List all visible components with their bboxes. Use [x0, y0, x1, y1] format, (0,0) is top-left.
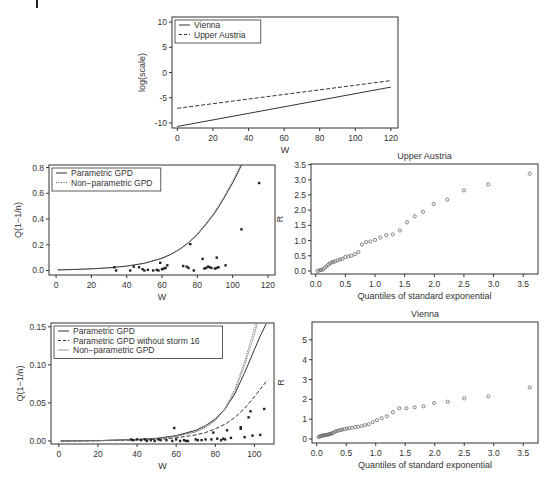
- y-tick-label: 4: [302, 355, 307, 365]
- legend-label: Non−parametric GPD: [73, 345, 155, 355]
- x-tick-label: 0.5: [340, 448, 352, 458]
- x-tick-label: 3.5: [517, 448, 529, 458]
- qq-point: [369, 240, 372, 243]
- y-axis-label: Q(1−1/n): [15, 366, 25, 402]
- x-tick-label: 2.0: [429, 448, 441, 458]
- plot-frame: [312, 322, 538, 443]
- x-axis-label: W: [281, 145, 290, 155]
- data-point: [153, 440, 155, 442]
- x-tick-label: 3.5: [517, 279, 529, 289]
- x-tick-label: 2.5: [458, 448, 470, 458]
- y-tick-label: 3: [302, 375, 307, 385]
- qq-point: [463, 397, 466, 400]
- qq-point: [391, 233, 394, 236]
- qq-point: [462, 189, 465, 192]
- qq-point: [385, 415, 388, 418]
- legend: ViennaUpper Austria: [175, 20, 261, 43]
- data-point: [230, 437, 232, 439]
- x-tick-label: 1.5: [399, 279, 411, 289]
- data-point: [240, 228, 242, 230]
- x-axis-label: W: [158, 461, 167, 471]
- x-tick-label: 60: [279, 133, 289, 143]
- y-tick-label: 0.4: [32, 214, 44, 224]
- x-tick-label: 2.5: [458, 279, 470, 289]
- qq-point: [528, 386, 531, 389]
- legend-label: Parametric GPD: [71, 168, 133, 178]
- qq-point: [446, 198, 449, 201]
- y-tick-label: 0.00: [29, 436, 46, 446]
- data-point: [210, 438, 212, 440]
- data-point: [187, 440, 189, 442]
- qq-point: [385, 234, 388, 237]
- qq-point: [446, 400, 449, 403]
- x-tick-label: 80: [211, 449, 221, 459]
- x-tick-label: 3.0: [488, 279, 500, 289]
- data-point: [171, 440, 173, 442]
- qq-point: [379, 236, 382, 239]
- legend: Parametric GPDNon−parametric GPD: [52, 168, 161, 191]
- y-tick-label: 3.0: [294, 175, 306, 185]
- y-tick-label: 0.05: [29, 398, 46, 408]
- data-point: [132, 439, 134, 441]
- qq-point: [528, 172, 531, 175]
- x-tick-label: 60: [157, 280, 167, 290]
- data-point: [129, 269, 131, 271]
- qq-point: [375, 419, 378, 422]
- data-point: [113, 266, 115, 268]
- x-tick-label: 0: [54, 280, 59, 290]
- y-tick-label: 0.5: [294, 251, 306, 261]
- qq-point: [413, 406, 416, 409]
- chart-qq-vienna: Vienna0.00.51.01.52.02.53.03.5012345Quan…: [276, 309, 538, 470]
- y-tick-label: -5: [159, 93, 167, 103]
- x-axis-label: W: [158, 292, 167, 302]
- qq-point: [421, 210, 424, 213]
- qq-point: [432, 203, 435, 206]
- x-tick-label: 0: [56, 449, 61, 459]
- qq-point: [365, 240, 368, 243]
- x-tick-label: 40: [132, 449, 142, 459]
- series-line: [177, 87, 391, 126]
- data-point: [224, 264, 226, 266]
- data-point: [173, 427, 175, 429]
- data-point: [150, 439, 152, 441]
- data-point: [204, 438, 206, 440]
- qq-point: [422, 405, 425, 408]
- y-tick-label: 0.8: [32, 163, 44, 173]
- y-tick-label: 0.10: [29, 360, 46, 370]
- data-point: [166, 264, 168, 266]
- data-point: [263, 408, 265, 410]
- x-tick-label: 1.0: [370, 448, 382, 458]
- x-tick-label: 20: [208, 133, 218, 143]
- x-tick-label: 0: [175, 133, 180, 143]
- figure: 020406080100120-10-50510Wlog(scale)Vienn…: [0, 0, 556, 482]
- y-tick-label: 0.0: [294, 266, 306, 276]
- y-tick-label: 1.5: [294, 220, 306, 230]
- data-point: [159, 439, 161, 441]
- legend-label: Parametric GPD: [73, 326, 135, 336]
- chart-return-level-vienna: 0204060801000.000.050.100.15WQ(1−1/n)Par…: [15, 319, 274, 471]
- legend-label: Parametric GPD without storm 16: [73, 336, 200, 346]
- data-point: [243, 436, 245, 438]
- qq-point: [398, 407, 401, 410]
- qq-point: [371, 421, 374, 424]
- x-tick-label: 0.5: [339, 279, 351, 289]
- x-tick-label: 80: [193, 280, 203, 290]
- data-point: [251, 434, 253, 436]
- chart-return-level-upper-austria: 0204060801001200.00.20.40.60.8WQ(1−1/n)P…: [13, 163, 275, 302]
- qq-point: [357, 251, 360, 254]
- y-axis-label: log(scale): [137, 53, 147, 92]
- qq-point: [367, 423, 370, 426]
- qq-point: [360, 243, 363, 246]
- x-tick-label: 20: [93, 449, 103, 459]
- series-line: [177, 81, 391, 109]
- y-tick-label: 2.5: [294, 190, 306, 200]
- x-tick-label: 2.0: [428, 279, 440, 289]
- x-tick-label: 100: [226, 280, 240, 290]
- y-tick-label: 0: [162, 68, 167, 78]
- data-point: [164, 267, 166, 269]
- qq-point: [405, 221, 408, 224]
- qq-point: [391, 411, 394, 414]
- qq-point: [487, 395, 490, 398]
- data-point: [182, 265, 184, 267]
- qq-point: [433, 401, 436, 404]
